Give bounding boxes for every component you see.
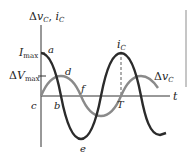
point-label-a: a [48, 44, 54, 55]
y-label-sep: , [49, 10, 56, 23]
y-label-delta: Δ [29, 10, 37, 23]
point-label-T: T [117, 99, 125, 110]
point-label-f: f [80, 83, 87, 94]
point-label-b: b [54, 100, 60, 111]
current-curve-label-sub: C [121, 44, 127, 52]
svg-text:iC: iC [117, 38, 127, 52]
svg-text:ΔvC, iC: ΔvC, iC [29, 10, 65, 24]
voltage-curve-label-sub: C [168, 76, 174, 84]
capacitor-ac-graph: ΔvC, iC Imax ΔVmax a b c d e f T iC ΔvC … [0, 0, 189, 160]
svg-text:ΔVmax: ΔVmax [9, 69, 40, 83]
dv-max-sub: max [25, 75, 40, 83]
point-label-e: e [80, 143, 86, 154]
y-label-i-sub: C [59, 16, 65, 24]
dv-max-delta: Δ [9, 69, 17, 82]
svg-text:Imax: Imax [18, 46, 38, 60]
svg-text:ΔvC: ΔvC [154, 70, 174, 84]
point-label-c: c [31, 100, 37, 111]
i-max-sub: max [23, 52, 38, 60]
x-axis-label: t [173, 90, 178, 103]
voltage-curve-label-delta: Δ [154, 70, 162, 83]
point-label-d: d [65, 66, 71, 77]
